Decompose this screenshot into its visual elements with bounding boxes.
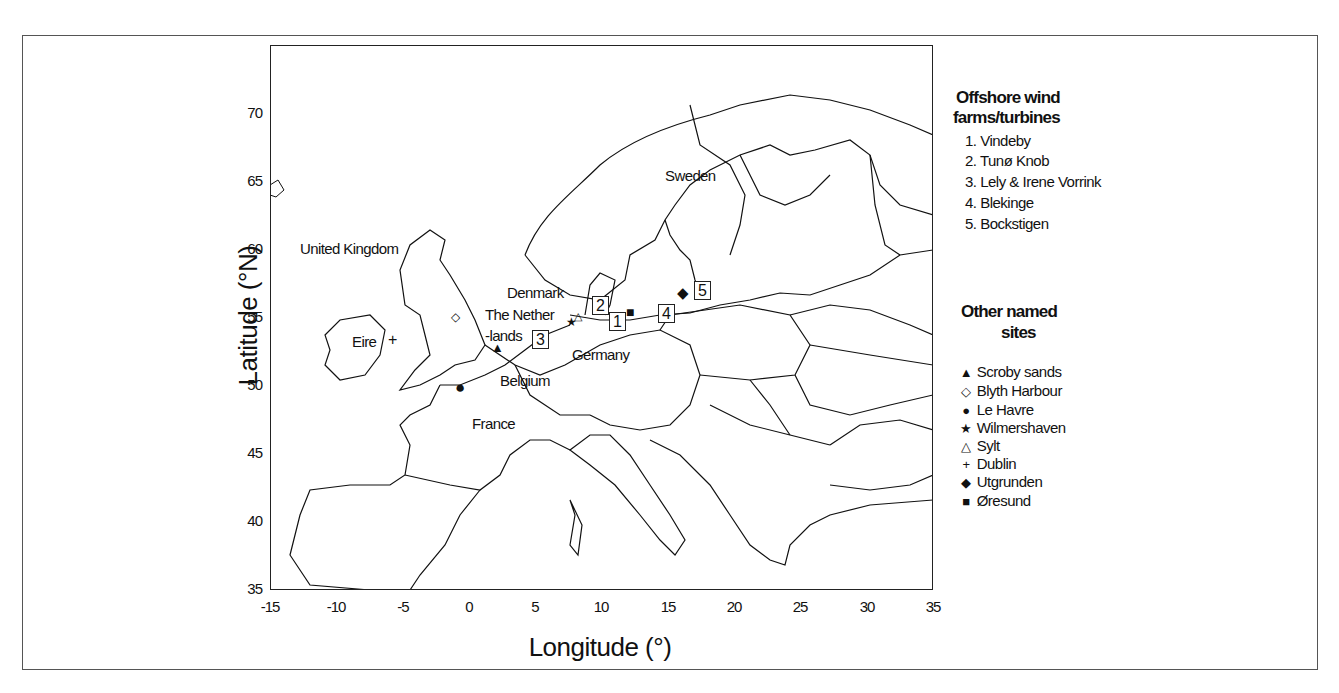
label-denmark: Denmark (507, 284, 564, 301)
legend-site-scroby-sands: ▲ Scroby sands (959, 363, 1062, 382)
x-tick-5: 5 (515, 598, 555, 615)
filled-square-icon: ■ (959, 493, 973, 511)
wind-farm-marker-3[interactable]: 3 (532, 330, 549, 349)
le-havre-marker[interactable]: ● (455, 378, 465, 398)
legend-site-blyth-harbour: ◇ Blyth Harbour (959, 382, 1062, 401)
wind-farm-marker-5[interactable]: 5 (694, 281, 711, 300)
star-icon: ★ (959, 420, 973, 438)
label-germany: Germany (572, 346, 630, 363)
filled-diamond-icon: ◆ (959, 474, 973, 492)
wind-farm-marker-1[interactable]: 1 (609, 312, 626, 331)
plus-icon: + (959, 456, 973, 474)
legend-farm-4: 4. Blekinge (965, 194, 1034, 212)
x-tick-10: 10 (581, 598, 621, 615)
legend-site-sylt: △ Sylt (959, 437, 1000, 456)
x-tick-15: 15 (648, 598, 688, 615)
legend-site-wilmershaven: ★ Wilmershaven (959, 419, 1066, 438)
legend-site-dublin: + Dublin (959, 455, 1016, 474)
label-eire: Eire (352, 333, 376, 350)
x-tick-20: 20 (714, 598, 754, 615)
wind-farm-marker-4[interactable]: 4 (658, 304, 675, 323)
legend-site-le-havre: ● Le Havre (959, 401, 1034, 420)
y-tick-45: 45 (222, 444, 262, 461)
x-tick--15: -15 (250, 598, 290, 615)
legend-site-oresund: ■ Øresund (959, 492, 1031, 511)
x-tick-0: 0 (449, 598, 489, 615)
filled-triangle-icon: ▲ (959, 364, 973, 382)
y-tick-40: 40 (222, 512, 262, 529)
dublin-marker[interactable]: + (388, 331, 397, 349)
scroby-sands-marker[interactable]: ▲ (491, 340, 504, 355)
blyth-harbour-marker[interactable]: ◇ (451, 310, 460, 324)
filled-circle-icon: ● (959, 402, 973, 420)
label-sweden: Sweden (665, 167, 716, 184)
label-netherlands-1: The Nether (485, 306, 554, 323)
legend-farm-1: 1. Vindeby (965, 132, 1031, 150)
legend-farm-2: 2. Tunø Knob (965, 152, 1049, 170)
label-france: France (472, 415, 515, 432)
legend-sites-title-line1: Other named (961, 302, 1057, 322)
legend-farm-3: 3. Lely & Irene Vorrink (965, 173, 1101, 191)
label-belgium: Belgium (500, 372, 550, 389)
oresund-marker[interactable]: ■ (626, 304, 634, 320)
x-tick-25: 25 (780, 598, 820, 615)
x-tick-35: 35 (913, 598, 953, 615)
x-tick--10: -10 (316, 598, 356, 615)
legend-farm-5: 5. Bockstigen (965, 215, 1049, 233)
legend-farms-title-line1: Offshore wind (956, 88, 1060, 108)
label-united-kingdom: United Kingdom (300, 240, 398, 257)
y-axis-label: Latitude (°N) (233, 186, 264, 446)
y-tick-35: 35 (222, 580, 262, 597)
open-diamond-icon: ◇ (959, 383, 973, 401)
utgrunden-marker[interactable]: ◆ (677, 284, 689, 302)
open-triangle-icon: △ (959, 438, 973, 456)
x-tick--5: -5 (383, 598, 423, 615)
map-plot-area (270, 45, 933, 590)
y-tick-70: 70 (222, 104, 262, 121)
x-axis-label: Longitude (°) (500, 632, 700, 663)
wind-farm-marker-2[interactable]: 2 (592, 296, 609, 315)
x-tick-30: 30 (847, 598, 887, 615)
legend-site-utgrunden: ◆ Utgrunden (959, 473, 1042, 492)
sylt-marker[interactable]: △ (574, 310, 582, 323)
legend-farms-title-line2: farms/turbines (953, 108, 1060, 128)
legend-sites-title-line2: sites (1001, 323, 1036, 343)
